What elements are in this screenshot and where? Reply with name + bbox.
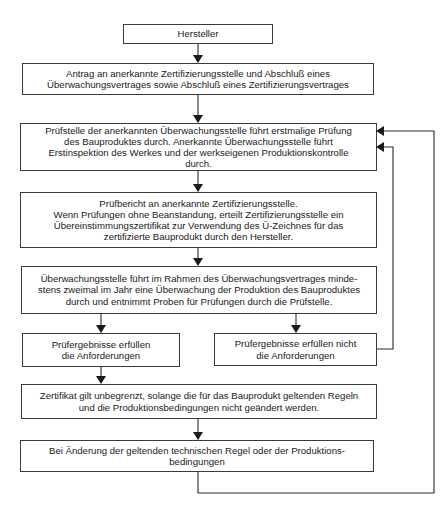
node-nicht-erfuellt: Prüfergebnisse erfüllen nicht die Anford… — [214, 333, 377, 366]
node-antrag-text: Antrag an anerkannte Zertifizierungsstel… — [47, 68, 349, 90]
node-aenderung: Bei Änderung der geltenden technischen R… — [20, 440, 374, 472]
node-hersteller-text: Hersteller — [177, 28, 218, 39]
node-erstpruefung-text: Prüfstelle der anerkannten Überwachungss… — [45, 125, 352, 170]
node-zertifikat-text: Zertifikat gilt unbegrenzt, solange die … — [40, 390, 358, 412]
loop-nicht-erfuellt-to-erstpruefung — [377, 147, 393, 349]
node-pruefbericht-text: Prüfbericht an anerkannte Zertifizierung… — [54, 198, 344, 243]
node-ueberwachung-text: Überwachungsstelle führt im Rahmen des Ü… — [38, 273, 360, 307]
node-antrag: Antrag an anerkannte Zertifizierungsstel… — [22, 63, 374, 95]
node-erfuellt-text: Prüfergebnisse erfüllen die Anforderunge… — [52, 339, 151, 361]
node-pruefbericht: Prüfbericht an anerkannte Zertifizierung… — [20, 192, 377, 248]
node-zertifikat: Zertifikat gilt unbegrenzt, solange die … — [21, 384, 377, 419]
node-hersteller: Hersteller — [123, 24, 273, 44]
node-erstpruefung: Prüfstelle der anerkannten Überwachungss… — [20, 123, 377, 171]
node-ueberwachung: Überwachungsstelle führt im Rahmen des Ü… — [21, 266, 377, 314]
node-erfuellt: Prüfergebnisse erfüllen die Anforderunge… — [22, 333, 180, 367]
node-nicht-erfuellt-text: Prüfergebnisse erfüllen nicht die Anford… — [235, 338, 357, 360]
node-aenderung-text: Bei Änderung der geltenden technischen R… — [49, 445, 345, 467]
